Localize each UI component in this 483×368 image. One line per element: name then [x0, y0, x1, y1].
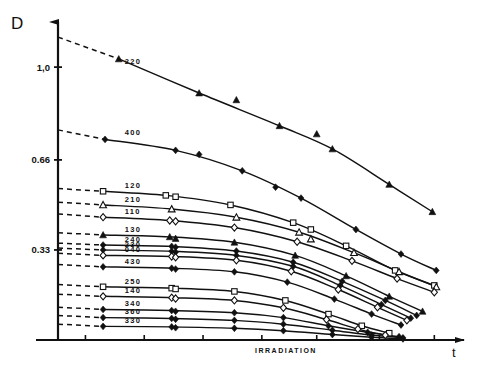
curve-label-360: 360	[125, 307, 142, 316]
data-point-open-square	[173, 194, 178, 199]
data-point-filled-triangle	[386, 293, 393, 299]
data-point-open-diamond	[231, 224, 237, 231]
data-point-filled-triangle	[429, 208, 436, 214]
data-point-open-square	[173, 286, 178, 291]
curve-labels: 2204001202101101302402300404302501403403…	[125, 57, 142, 325]
data-point-open-diamond	[173, 218, 179, 225]
data-point-filled-diamond	[298, 195, 304, 202]
data-point-open-square	[100, 284, 105, 289]
data-point-filled-diamond	[284, 279, 290, 286]
data-point-filled-diamond	[232, 325, 238, 332]
curve-430	[103, 267, 401, 325]
data-point-open-square	[308, 227, 313, 232]
extrapolation-dashed-340	[58, 307, 103, 309]
y-tick-label: 0.66	[32, 154, 51, 165]
data-point-open-square	[290, 220, 295, 225]
data-point-open-diamond	[394, 275, 400, 282]
data-point-open-square	[343, 243, 348, 248]
data-point-open-diamond	[349, 257, 355, 264]
extrapolation-dashed-400	[58, 130, 105, 140]
data-point-filled-diamond	[173, 147, 179, 154]
y-tick-label: 0.33	[32, 244, 51, 255]
data-point-open-diamond	[233, 257, 239, 264]
axis-tick-labels: 1,00.660.33	[32, 62, 51, 256]
curve-label-430: 430	[125, 257, 142, 266]
data-point-filled-triangle	[329, 146, 336, 152]
x-axis-title: IRRADIATION	[255, 347, 317, 354]
data-point-filled-diamond	[100, 323, 106, 330]
curve-label-110: 110	[125, 207, 141, 216]
data-point-filled-diamond	[232, 317, 238, 324]
curve-label-140: 140	[125, 286, 142, 295]
data-point-open-diamond	[280, 304, 286, 311]
curve-label-130: 130	[125, 225, 142, 234]
curve-label-040: 040	[125, 245, 142, 254]
y-axis-label: D	[11, 14, 23, 33]
data-point-filled-triangle	[172, 235, 179, 241]
data-point-open-square	[163, 193, 168, 198]
data-point-open-diamond	[100, 293, 106, 300]
axes	[36, 22, 464, 340]
curve-label-250: 250	[125, 277, 142, 286]
curve-label-400: 400	[125, 128, 142, 137]
data-point-open-diamond	[231, 297, 237, 304]
data-point-filled-triangle	[233, 96, 240, 102]
curve-120	[103, 191, 434, 285]
x-axis-symbol: t	[452, 345, 456, 360]
extrapolation-dashed-360	[58, 315, 103, 317]
data-point-filled-diamond	[232, 268, 238, 275]
data-point-filled-triangle	[115, 56, 122, 62]
data-point-filled-diamond	[100, 306, 106, 313]
data-point-filled-diamond	[433, 267, 439, 274]
data-point-open-diamond	[100, 252, 106, 259]
extrapolation-dashed-120	[58, 189, 103, 192]
data-point-filled-diamond	[281, 321, 287, 328]
data-point-open-diamond	[100, 214, 106, 221]
extrapolation-dashed-130	[58, 233, 103, 235]
data-point-filled-diamond	[330, 331, 336, 338]
extrapolation-dashed-210	[58, 202, 103, 205]
data-point-filled-diamond	[414, 312, 420, 319]
y-tick-label: 1,0	[37, 62, 50, 73]
extrapolation-dashed-230	[58, 248, 103, 250]
extrapolation-dashed-250	[58, 285, 103, 287]
extrapolation-dashed-140	[58, 294, 103, 296]
data-point-open-square	[100, 189, 105, 194]
data-point-filled-diamond	[398, 322, 404, 329]
data-point-filled-diamond	[331, 296, 337, 303]
curve-label-220: 220	[125, 57, 142, 66]
extrapolation-dashed-240	[58, 243, 103, 245]
data-point-filled-diamond	[232, 309, 238, 316]
data-point-filled-diamond	[398, 251, 404, 258]
curve-label-210: 210	[125, 195, 142, 204]
data-point-open-square	[232, 289, 237, 294]
curves	[58, 37, 436, 339]
data-point-filled-diamond	[281, 314, 287, 321]
data-point-filled-triangle	[419, 308, 426, 314]
data-point-filled-diamond	[100, 314, 106, 321]
extrapolation-dashed-220	[58, 37, 119, 59]
extrapolation-dashed-040	[58, 253, 103, 255]
data-point-filled-diamond	[281, 327, 287, 334]
data-point-open-square	[283, 298, 288, 303]
curve-110	[103, 217, 434, 292]
extrapolation-dashed-430	[58, 264, 103, 266]
data-point-filled-diamond	[353, 226, 359, 233]
data-point-filled-diamond	[102, 136, 108, 143]
curve-label-120: 120	[125, 181, 142, 190]
data-point-open-diamond	[294, 238, 300, 245]
chart-canvas: 2204001202101101302402300404302501403403…	[0, 0, 483, 368]
data-point-filled-triangle	[386, 181, 393, 187]
curve-label-330: 330	[125, 316, 142, 325]
chart-figure: 2204001202101101302402300404302501403403…	[0, 0, 483, 368]
data-point-open-square	[228, 202, 233, 207]
extrapolation-dashed-330	[58, 324, 103, 326]
data-point-filled-diamond	[369, 311, 375, 318]
data-point-open-diamond	[167, 217, 173, 224]
data-markers	[100, 56, 440, 343]
extrapolation-dashed-110	[58, 214, 103, 217]
data-point-filled-triangle	[313, 131, 320, 137]
data-point-filled-diamond	[100, 263, 106, 270]
data-point-filled-diamond	[239, 167, 245, 174]
